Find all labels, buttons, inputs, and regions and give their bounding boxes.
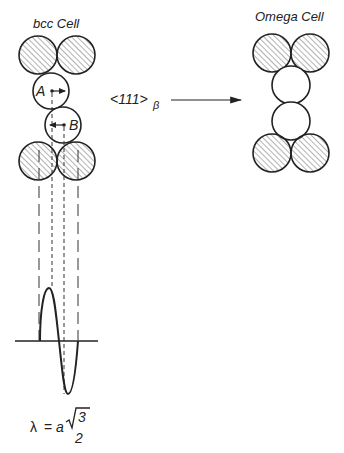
omega-cell-title: Omega Cell [255, 9, 325, 24]
direction-subscript: β [152, 99, 160, 111]
atom-b-label: B [69, 117, 78, 133]
atom-a-label: A [35, 83, 45, 99]
hatched-atom-top-left [19, 36, 57, 74]
hatched-atom-bottom-right [57, 142, 95, 180]
direction-label: <111> [110, 91, 148, 107]
hatched-atom-bottom-left [19, 142, 57, 180]
formula-equals: = [44, 419, 52, 435]
omega-cell: Omega Cell [253, 9, 329, 172]
formula-denominator: 2 [74, 430, 83, 446]
formula-numerator: 3 [78, 409, 86, 425]
bcc-cell: bcc Cell A B [15, 16, 98, 394]
bcc-cell-title: bcc Cell [33, 16, 80, 31]
diagram-canvas: bcc Cell A B <111> β Omega Cell [0, 0, 344, 453]
hatched-atom-top-right [57, 36, 95, 74]
omega-hatched-atom-bottom-left [253, 134, 291, 172]
formula-lambda: λ [30, 419, 37, 435]
omega-hatched-atom-bottom-right [291, 134, 329, 172]
wavelength-formula: λ = a 3 2 [30, 408, 90, 446]
transformation: <111> β [110, 91, 241, 111]
omega-atom-upper [272, 66, 310, 104]
formula-a: a [56, 419, 64, 435]
